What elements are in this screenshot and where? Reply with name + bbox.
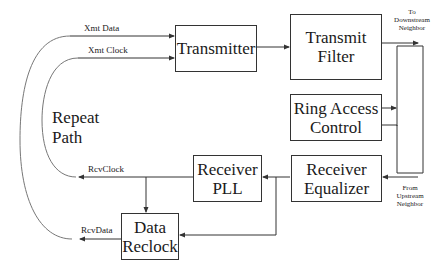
xmt-data-label: Xmt Data	[84, 23, 119, 33]
rcv-data-label: RcvData	[81, 225, 113, 235]
transmit-filter-label-1: Transmit	[306, 28, 367, 47]
transmitter-block: Transmitter	[175, 25, 257, 72]
receiver-equalizer-block: Receiver Equalizer	[291, 155, 382, 202]
transmit-filter-block: Transmit Filter	[290, 14, 382, 80]
data-reclock-block: Data Reclock	[121, 213, 179, 260]
from-upstream-annotation: From Upstream Neighbor	[382, 184, 438, 208]
ring-access-label-2: Control	[310, 118, 362, 137]
repeat-path-annotation: Repeat Path	[52, 108, 99, 148]
xmt-clock-label: Xmt Clock	[88, 45, 128, 55]
data-reclock-label-2: Reclock	[122, 237, 178, 256]
data-reclock-label-1: Data	[134, 218, 166, 237]
ring-access-control-block: Ring Access Control	[290, 94, 382, 141]
to-downstream-annotation: To Downstream Neighbor	[384, 8, 440, 32]
transmit-filter-label-2: Filter	[318, 47, 355, 66]
rcv-clock-label: RcvClock	[88, 164, 124, 174]
receiver-equalizer-label-1: Receiver	[306, 160, 366, 179]
receiver-pll-block: Receiver PLL	[193, 155, 262, 202]
ring-access-label-1: Ring Access	[294, 99, 379, 118]
transmitter-label: Transmitter	[177, 39, 256, 58]
receiver-pll-label-2: PLL	[212, 179, 242, 198]
receiver-equalizer-label-2: Equalizer	[304, 179, 369, 198]
receiver-pll-label-1: Receiver	[197, 160, 257, 179]
